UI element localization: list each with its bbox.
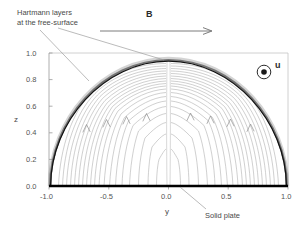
- mhd-streamline-figure: Hartmann layers at the free-surface B u …: [0, 0, 305, 235]
- x-tick-label-1: -1.0: [40, 192, 53, 201]
- left-vortex-streamlines: [59, 64, 167, 187]
- y-tick-label-5: 0.2: [26, 155, 36, 164]
- x-tick-label-5: 1.0: [281, 192, 291, 201]
- y-tick-label-4: 0.4: [26, 128, 36, 137]
- y-tick-label-6: 0.0: [26, 182, 36, 191]
- hartmann-annotation-line2: at the free-surface: [17, 18, 78, 28]
- velocity-label: u: [275, 60, 281, 70]
- x-tick-label-2: -0.5: [100, 192, 113, 201]
- solid-plate-annotation: Solid plate: [205, 211, 240, 221]
- y-tick-label-2: 0.8: [26, 75, 36, 84]
- plot-frame: [49, 53, 288, 186]
- annotation-leader-lines: [40, 28, 206, 209]
- hartmann-annotation-line1: Hartmann layers: [17, 8, 72, 18]
- y-tick-label-1: 1.0: [26, 49, 36, 58]
- velocity-out-of-plane-symbol: [257, 65, 271, 79]
- magnetic-field-label: B: [146, 9, 153, 19]
- y-tick-label-3: 0.6: [26, 102, 36, 111]
- x-tick-label-4: 0.5: [221, 192, 231, 201]
- x-axis-title: y: [165, 207, 169, 216]
- right-vortex-streamlines: [171, 64, 279, 187]
- x-tick-label-3: 0.0: [161, 192, 171, 201]
- symmetry-plane-streamlines: [167, 62, 171, 186]
- flow-direction-arrowheads: [83, 113, 254, 132]
- magnetic-field-arrow: [100, 28, 212, 35]
- free-surface-hartmann-layer: [50, 59, 288, 187]
- y-axis-title: z: [14, 115, 18, 124]
